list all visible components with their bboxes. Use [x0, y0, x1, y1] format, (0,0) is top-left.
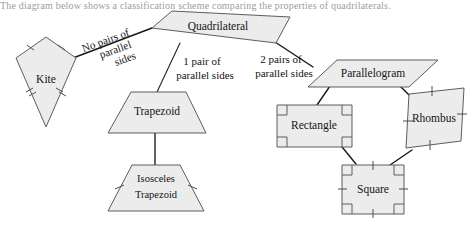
node-parallelogram[interactable]: Parallelogram: [308, 60, 438, 87]
square-label: Square: [357, 183, 389, 196]
node-rectangle[interactable]: Rectangle: [277, 105, 352, 147]
edge-label-no-parallel-sides: No pairs of parallel sides: [80, 26, 139, 77]
edge-quadrilateral-to-trapezoid: [157, 43, 180, 92]
quadrilateral-classification-diagram: The diagram below shows a classification…: [0, 0, 474, 225]
quadrilateral-label: Quadrilateral: [188, 20, 249, 32]
node-trapezoid[interactable]: Trapezoid: [108, 92, 206, 133]
rhombus-label: Rhombus: [412, 112, 457, 124]
edge-label-one-pair-line1: 1 pair of: [183, 55, 221, 67]
edge-label-two-pairs-line2: parallel sides: [255, 67, 313, 79]
node-kite[interactable]: Kite: [16, 37, 76, 127]
parallelogram-label: Parallelogram: [341, 67, 406, 80]
diagram-canvas: Quadrilateral Kite No pairs of parallel …: [0, 0, 474, 225]
edge-label-two-pairs-line1: 2 pairs of: [260, 53, 302, 65]
isosceles-trapezoid-label-line2: Trapezoid: [135, 189, 178, 200]
kite-label: Kite: [36, 73, 56, 85]
node-quadrilateral[interactable]: Quadrilateral: [152, 11, 290, 43]
node-rhombus[interactable]: Rhombus: [403, 86, 467, 150]
rectangle-label: Rectangle: [291, 119, 337, 132]
edge-label-two-pairs-parallel: 2 pairs of parallel sides: [255, 53, 313, 79]
edge-label-one-pair-parallel: 1 pair of parallel sides: [176, 55, 234, 81]
node-isosceles-trapezoid[interactable]: Isosceles Trapezoid: [108, 165, 204, 211]
edge-parallelogram-to-rectangle: [317, 86, 330, 105]
isosceles-trapezoid-shape: [108, 165, 204, 211]
trapezoid-label: Trapezoid: [134, 105, 180, 118]
edge-rhombus-to-square: [390, 150, 412, 165]
node-square[interactable]: Square: [338, 161, 408, 218]
isosceles-trapezoid-label-line1: Isosceles: [137, 173, 175, 184]
edge-label-one-pair-line2: parallel sides: [176, 69, 234, 81]
